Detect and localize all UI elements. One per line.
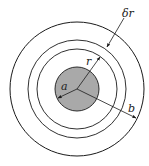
label-a: a: [61, 80, 68, 93]
coaxial-diagram: a r b δr: [0, 0, 149, 166]
label-delta-r: δr: [122, 7, 135, 20]
label-r: r: [86, 55, 92, 68]
delta-r-arrow: [107, 18, 124, 47]
label-b: b: [128, 102, 135, 115]
